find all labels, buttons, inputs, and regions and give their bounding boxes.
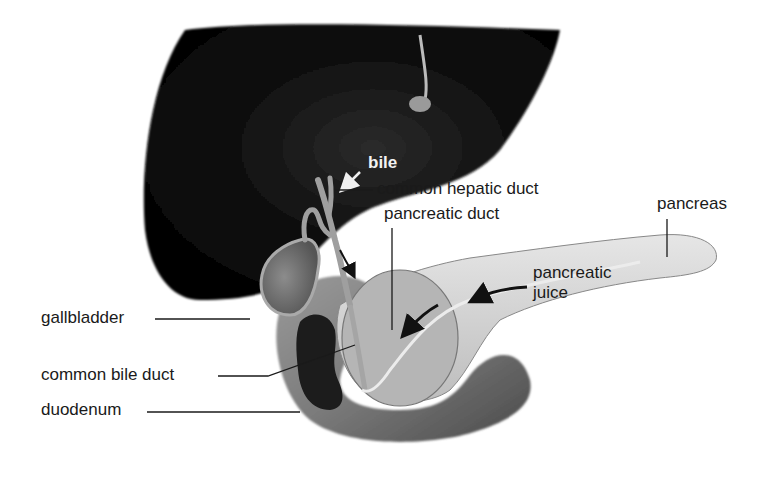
label-duodenum: duodenum <box>41 401 121 419</box>
label-bile: bile <box>368 154 397 172</box>
label-pancreatic-juice-2: juice <box>533 284 568 302</box>
anatomy-diagram: bile common hepatic duct pancreatic duct… <box>0 0 778 499</box>
diagram-artwork <box>0 0 778 499</box>
hepatic-duct-branch <box>329 178 331 215</box>
label-common-bile-duct: common bile duct <box>41 366 174 384</box>
label-gallbladder: gallbladder <box>41 309 124 327</box>
label-pancreatic-juice-1: pancreatic <box>533 264 611 282</box>
vein-opening <box>409 96 431 112</box>
pancreas-cutaway <box>342 270 458 406</box>
label-pancreas: pancreas <box>657 195 727 213</box>
label-common-hepatic-duct: common hepatic duct <box>377 180 539 198</box>
label-pancreatic-duct: pancreatic duct <box>384 205 499 223</box>
